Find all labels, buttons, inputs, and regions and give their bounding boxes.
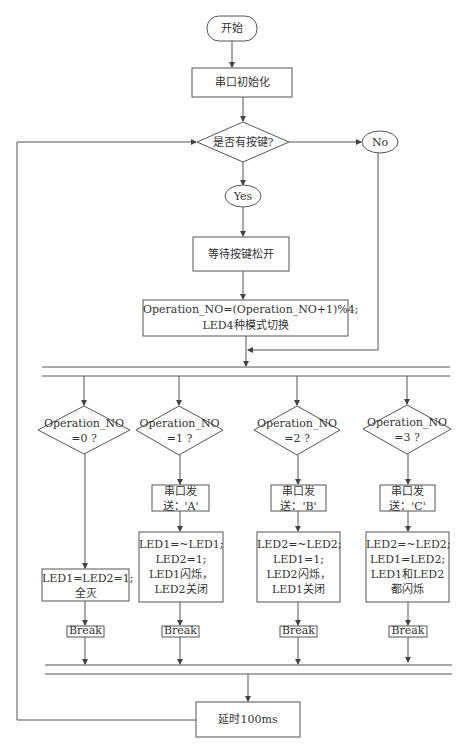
branch2-break: Break [280,623,317,638]
start-label: 开始 [207,21,257,36]
yes-label: Yes [225,189,261,204]
branch1-cond: Operation_NO =1 ? [136,416,223,446]
branch2-action: LED2=~LED2; LED1=1; LED2闪烁， LED1关闭 [257,537,340,597]
delay-label: 延时100ms [196,712,300,727]
branch0-cond: Operation_NO =0 ? [38,416,130,446]
branch0-break: Break [67,623,104,638]
flowchart-lines [0,0,461,753]
operation-line2: LED4种模式切换 [143,318,348,333]
init-label: 串口初始化 [192,75,292,90]
key-decision-label: 是否有按键? [197,135,289,150]
no-label: No [362,135,398,150]
operation-line1: Operation_NO=(Operation_NO+1)%4; [143,302,348,317]
branch1-action: LED1=~LED1; LED2=1; LED1闪烁， LED2关闭 [139,537,223,597]
branch1-send: 串口发 送：'A' [152,484,209,514]
branch3-cond: Operation_NO =3 ? [363,415,451,445]
wait-release-label: 等待按键松开 [193,247,289,262]
branch2-cond: Operation_NO =2 ? [254,416,340,446]
branch3-send: 串口发 送：'C' [380,484,435,514]
branch2-send: 串口发 送：'B' [271,484,326,514]
branch1-break: Break [162,623,199,638]
branch3-break: Break [389,623,427,638]
branch3-action: LED2=~LED2; LED1=LED2; LED1和LED2 都闪烁 [366,537,449,597]
branch0-action: LED1=LED2=1; 全灭 [42,571,129,601]
